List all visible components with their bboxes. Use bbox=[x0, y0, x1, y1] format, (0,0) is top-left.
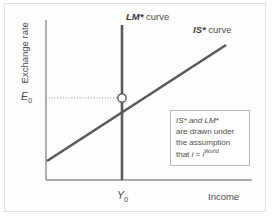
x-axis-title: Income bbox=[208, 192, 239, 202]
assumption-note-box: IS* and LM* are drawn under the assumpti… bbox=[170, 110, 250, 166]
lm-star-name: LM* bbox=[126, 11, 143, 22]
lm-star-curve-word: curve bbox=[146, 11, 169, 22]
e0-symbol: E bbox=[21, 90, 28, 102]
y0-subscript: 0 bbox=[124, 195, 128, 204]
note-line-1: IS* and LM* bbox=[176, 115, 244, 126]
is-star-curve-word: curve bbox=[208, 24, 231, 35]
note-world-superscript: World bbox=[204, 148, 219, 154]
note-line-4: that i = iWorld bbox=[176, 148, 244, 160]
y0-axis-tick-label: Y0 bbox=[117, 190, 128, 204]
e0-subscript: 0 bbox=[28, 96, 32, 105]
note-line-3: the assumption bbox=[176, 137, 244, 148]
equilibrium-point-marker bbox=[118, 94, 126, 102]
y0-symbol: Y bbox=[117, 189, 124, 201]
note-line-2: are drawn under bbox=[176, 126, 244, 137]
is-star-curve-label: IS* curve bbox=[193, 25, 232, 35]
is-lm-star-diagram: Exchange rate Income E0 Y0 LM* curve IS*… bbox=[0, 0, 273, 222]
note-that-word: that bbox=[176, 150, 192, 159]
e0-axis-tick-label: E0 bbox=[21, 91, 32, 105]
is-star-name: IS* bbox=[193, 24, 206, 35]
lm-star-curve-label: LM* curve bbox=[126, 12, 169, 22]
y-axis-title: Exchange rate bbox=[20, 20, 30, 86]
